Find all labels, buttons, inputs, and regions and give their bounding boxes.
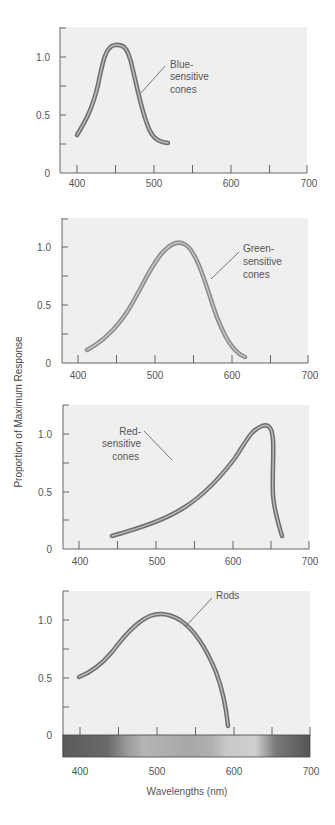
annotation-blue-line3: cones	[170, 84, 197, 95]
x-tick-400: 400	[72, 766, 89, 777]
panel-green-cones: 1.0 0.5 0 400 500 600 700 Green- sensiti…	[37, 218, 319, 381]
y-tick-0.5: 0.5	[38, 487, 52, 498]
y-tick-0: 0	[46, 730, 52, 741]
y-tick-0.5: 0.5	[37, 300, 51, 311]
y-tick-0.5: 0.5	[36, 110, 50, 121]
x-tick-600: 600	[225, 556, 242, 567]
y-tick-1.0: 1.0	[38, 615, 52, 626]
annotation-red-line1: Red-	[119, 426, 141, 437]
plot-area	[60, 27, 307, 173]
annotation-green-line3: cones	[243, 269, 270, 280]
panel-rods: 1.0 0.5 0 400 500 600 700 Wavelengths (n…	[38, 590, 320, 797]
y-tick-1.0: 1.0	[36, 52, 50, 63]
x-tick-700: 700	[302, 556, 319, 567]
x-tick-400: 400	[69, 178, 86, 189]
y-tick-1.0: 1.0	[38, 429, 52, 440]
annotation-rods: Rods	[216, 590, 239, 601]
annotation-red-line2: sensitive	[102, 438, 141, 449]
annotation-blue-line1: Blue-	[170, 59, 193, 70]
x-tick-500: 500	[149, 556, 166, 567]
x-tick-600: 600	[226, 766, 243, 777]
annotation-red-line3: cones	[112, 451, 139, 462]
annotation-green-line1: Green-	[243, 243, 274, 254]
y-axis-label: Proportion of Maximum Response	[13, 336, 24, 488]
x-tick-700: 700	[303, 766, 320, 777]
visible-spectrum-bar	[63, 735, 310, 757]
x-tick-600: 600	[224, 370, 241, 381]
x-tick-400: 400	[72, 556, 89, 567]
spectral-sensitivity-figure: Proportion of Maximum Response 1.0 0.5 0…	[0, 0, 335, 825]
x-tick-700: 700	[301, 178, 318, 189]
y-tick-0.5: 0.5	[38, 673, 52, 684]
x-tick-600: 600	[223, 178, 240, 189]
x-axis-label: Wavelengths (nm)	[147, 786, 228, 797]
x-tick-700: 700	[302, 370, 319, 381]
y-tick-1.0: 1.0	[37, 242, 51, 253]
x-tick-400: 400	[70, 370, 87, 381]
y-tick-0: 0	[46, 544, 52, 555]
y-tick-0: 0	[45, 358, 51, 369]
x-tick-500: 500	[146, 178, 163, 189]
annotation-blue-line2: sensitive	[170, 71, 209, 82]
x-tick-500: 500	[149, 766, 166, 777]
y-tick-0: 0	[44, 168, 50, 179]
panel-red-cones: 1.0 0.5 0 400 500 600 700 Red- sensitive…	[38, 405, 319, 567]
annotation-green-line2: sensitive	[243, 256, 282, 267]
x-tick-500: 500	[147, 370, 164, 381]
panel-blue-cones: 1.0 0.5 0 400 500 600 700 Blue- sensitiv…	[36, 27, 318, 189]
